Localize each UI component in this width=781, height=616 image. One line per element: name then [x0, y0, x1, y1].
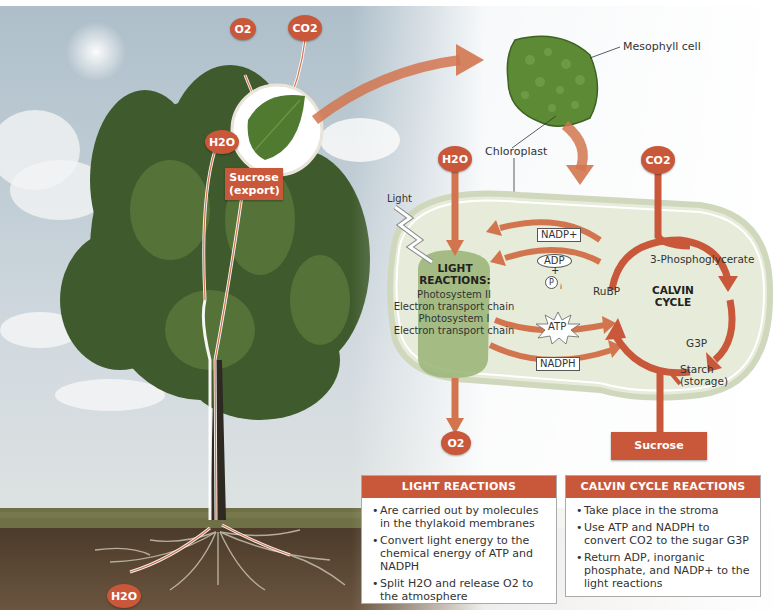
- h2o-chloroplast-badge: H2O: [438, 146, 472, 172]
- light-reactions-panel-title: LIGHT REACTIONS: [362, 476, 556, 498]
- light-reactions-steps: Photosystem II Electron transport chain …: [388, 289, 520, 337]
- o2-tree-badge: O2: [230, 18, 256, 40]
- step-electron-transport-2: Electron transport chain: [388, 325, 520, 337]
- g3p-label: G3P: [686, 337, 707, 349]
- o2-label: O2: [234, 23, 251, 36]
- bullet-item: Use ATP and NADPH to convert CO2 to the …: [576, 521, 752, 547]
- co2-chloroplast-badge: CO2: [641, 146, 675, 174]
- bullet-item: Return ADP, inorganic phosphate, and NAD…: [576, 551, 752, 590]
- sucrose-export-label: Sucrose (export): [634, 439, 685, 474]
- bullet-item: Convert light energy to the chemical ene…: [372, 534, 548, 573]
- calvin-cycle-panel: CALVIN CYCLE REACTIONS Take place in the…: [565, 475, 761, 597]
- step-electron-transport-1: Electron transport chain: [388, 301, 520, 313]
- calvin-title-2: CYCLE: [652, 296, 694, 308]
- nadph-box: NADPH: [536, 357, 580, 371]
- atp-label: ATP: [548, 321, 566, 332]
- co2-tree-badge: CO2: [288, 15, 322, 41]
- calvin-cycle-bullets: Take place in the stroma Use ATP and NAD…: [566, 498, 760, 598]
- h2o-leaf-badge: H2O: [205, 130, 239, 154]
- phosphate-icon: P: [545, 276, 558, 289]
- light-reactions-title-1: LIGHT: [405, 262, 505, 274]
- phosphoglycerate-label: 3-Phosphoglycerate: [650, 253, 754, 265]
- sucrose-export-tree-tag: Sucrose (export): [225, 168, 283, 200]
- calvin-cycle-title: CALVIN CYCLE: [652, 284, 694, 308]
- o2-chloroplast-badge: O2: [441, 431, 471, 455]
- light-reactions-block: LIGHT REACTIONS:: [405, 262, 505, 286]
- h2o-in-label: H2O: [442, 153, 468, 166]
- sucrose-label: Sucrose (export): [229, 171, 280, 197]
- step-photosystem-ii: Photosystem II: [388, 289, 520, 301]
- nadp-plus-box: NADP+: [537, 228, 581, 242]
- bullet-item: Take place in the stroma: [576, 504, 752, 517]
- h2o-label: H2O: [209, 136, 235, 149]
- photosynthesis-diagram: O2 CO2 H2O Sucrose (export) H2O Mesophyl…: [0, 0, 781, 616]
- bullet-item: Are carried out by molecules in the thyl…: [372, 504, 548, 530]
- pi-label: P: [549, 278, 554, 287]
- starch-storage-label: Starch (storage): [680, 363, 728, 387]
- calvin-cycle-panel-title: CALVIN CYCLE REACTIONS: [566, 476, 760, 498]
- light-reactions-title-2: REACTIONS:: [405, 274, 505, 286]
- light-reactions-bullets: Are carried out by molecules in the thyl…: [362, 498, 556, 611]
- chloroplast-label: Chloroplast: [485, 145, 547, 158]
- pi-subscript: i: [560, 283, 562, 291]
- rubp-label: RuBP: [593, 285, 620, 297]
- step-photosystem-i: Photosystem I: [388, 313, 520, 325]
- mesophyll-cell-label: Mesophyll cell: [623, 40, 701, 53]
- o2-out-label: O2: [447, 437, 464, 450]
- co2-label: CO2: [292, 22, 317, 35]
- bullet-item: Split H2O and release O2 to the atmosphe…: [372, 577, 548, 603]
- storage-label: (storage): [680, 375, 728, 387]
- light-label: Light: [387, 193, 412, 204]
- h2o-root-label: H2O: [111, 590, 137, 603]
- h2o-root-badge: H2O: [107, 584, 141, 608]
- co2-in-label: CO2: [645, 154, 670, 167]
- light-reactions-panel: LIGHT REACTIONS Are carried out by molec…: [361, 475, 557, 604]
- plus-sign: +: [551, 265, 559, 276]
- sucrose-export-tag: Sucrose (export): [611, 432, 707, 460]
- starch-label: Starch: [680, 363, 728, 375]
- calvin-title-1: CALVIN: [652, 284, 694, 296]
